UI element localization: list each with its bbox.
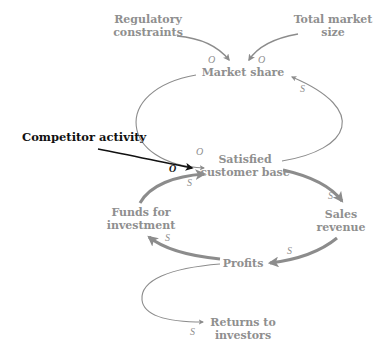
link-total-market-to-market-share [249, 34, 298, 60]
node-profits: Profits [223, 257, 264, 270]
node-satisfied-customer-base: Satisfied customer base [200, 153, 290, 179]
causal-loop-diagram [0, 0, 385, 357]
link-profits-to-returns [142, 264, 220, 322]
node-funds-for-investment: Funds for investment [107, 206, 176, 232]
node-label-line: size [294, 26, 373, 39]
node-regulatory-constraints: Regulatory constraints [113, 13, 183, 39]
node-total-market-size: Total market size [294, 13, 373, 39]
polarity-regulatory-market-share: O [208, 55, 215, 65]
node-market-share: Market share [202, 66, 285, 79]
link-regulatory-to-market-share [177, 36, 229, 60]
polarity-funds-satisfied: S [187, 178, 192, 188]
node-label-line: customer base [200, 166, 290, 179]
node-label-line: Profits [223, 257, 264, 270]
polarity-total-market-market-share: O [258, 55, 265, 65]
polarity-profits-returns: S [190, 327, 195, 337]
node-label-line: Returns to [210, 316, 275, 329]
polarity-profits-funds: S [165, 233, 170, 243]
link-sales-to-profits [270, 238, 337, 263]
link-profits-to-funds [149, 237, 220, 259]
node-returns-to-investors: Returns to investors [210, 316, 275, 342]
node-sales-revenue: Sales revenue [316, 208, 365, 234]
node-label-line: Total market [294, 13, 373, 26]
node-label-line: Market share [202, 66, 285, 79]
node-competitor-activity: Competitor activity [22, 131, 146, 144]
node-label-line: Competitor activity [22, 131, 146, 144]
polarity-sales-profits: S [287, 246, 292, 256]
node-label-line: Sales [316, 208, 365, 221]
link-satisfied-to-market-share [282, 77, 342, 161]
node-label-line: investment [107, 219, 176, 232]
node-label-line: Satisfied [200, 153, 290, 166]
link-market-share-to-satisfied [136, 75, 204, 168]
polarity-market-share-satisfied: O [196, 147, 203, 157]
link-satisfied-to-sales [283, 170, 342, 201]
link-competitor-to-satisfied [98, 149, 192, 168]
polarity-satisfied-market-share: S [300, 84, 305, 94]
node-label-line: Regulatory [113, 13, 183, 26]
polarity-satisfied-sales: S [328, 191, 333, 201]
node-label-line: constraints [113, 26, 183, 39]
node-label-line: investors [210, 329, 275, 342]
node-label-line: Funds for [107, 206, 176, 219]
node-label-line: revenue [316, 221, 365, 234]
polarity-competitor-satisfied: O [169, 164, 176, 174]
link-funds-to-satisfied [140, 174, 204, 203]
